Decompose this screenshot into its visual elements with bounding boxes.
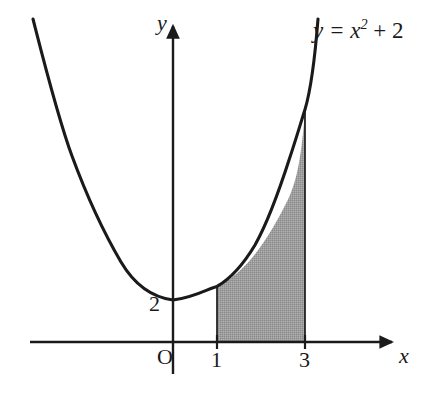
x-tick-label-1: 1: [211, 349, 222, 371]
y-intercept-label: 2: [149, 293, 160, 315]
figure-canvas: [0, 0, 425, 406]
x-tick-label-3: 3: [299, 349, 310, 371]
parabola-area-figure: y = x2 + 2 y x O 1 3 2: [0, 0, 425, 406]
x-axis-label: x: [399, 345, 409, 367]
origin-label: O: [157, 346, 173, 368]
curve-equation-label: y = x2 + 2: [313, 17, 404, 42]
shaded-area-region: [217, 110, 305, 343]
y-axis-label: y: [157, 12, 167, 34]
